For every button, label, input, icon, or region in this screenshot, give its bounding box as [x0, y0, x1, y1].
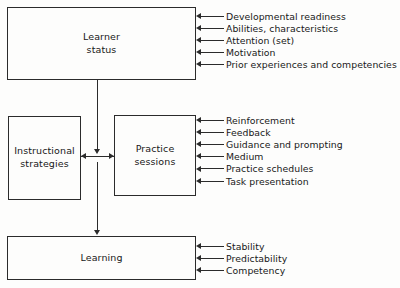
node-instructional-strategies-line2: strategies — [20, 158, 68, 169]
node-learner-status: Learner status — [7, 7, 196, 80]
annotation-label-practice-sessions-0: Reinforcement — [224, 115, 295, 126]
diagram-canvas: Learner status Instructional strategies … — [0, 0, 400, 288]
annotation-label-learner-status-2: Attention (set) — [224, 35, 294, 46]
arrow-left-icon — [196, 138, 224, 150]
node-instructional-strategies-line1: Instructional — [14, 145, 75, 156]
node-instructional-strategies: Instructional strategies — [8, 116, 81, 200]
arrow-left-icon — [196, 163, 224, 175]
annotation-row: Medium — [196, 151, 263, 163]
arrowhead-down-into-learning — [94, 230, 100, 235]
node-practice-sessions-label: Practice sessions — [115, 143, 195, 168]
arrow-left-icon — [196, 22, 224, 34]
annotation-label-learner-status-4: Prior experiences and competencies — [224, 59, 397, 70]
annotation-row: Feedback — [196, 126, 271, 138]
arrow-left-icon — [196, 34, 224, 46]
annotation-label-learner-status-3: Motivation — [224, 47, 275, 58]
arrow-left-icon — [196, 264, 224, 276]
arrow-left-icon — [196, 240, 224, 252]
annotation-row: Guidance and prompting — [196, 138, 343, 150]
annotation-label-practice-sessions-2: Guidance and prompting — [224, 139, 343, 150]
annotation-row: Reinforcement — [196, 114, 295, 126]
annotation-row: Competency — [196, 264, 285, 276]
arrow-left-icon — [196, 126, 224, 138]
annotation-label-learner-status-0: Developmental readiness — [224, 11, 346, 22]
annotation-row: Attention (set) — [196, 34, 294, 46]
annotation-row: Stability — [196, 240, 265, 252]
connector-learner-to-practice — [97, 80, 98, 150]
node-learner-status-label: Learner status — [83, 31, 120, 56]
node-learning: Learning — [7, 236, 196, 280]
annotation-label-learning-1: Predictability — [224, 253, 287, 264]
arrow-left-icon — [196, 10, 224, 22]
arrow-left-icon — [196, 175, 224, 187]
annotation-row: Predictability — [196, 252, 287, 264]
node-learner-status-line1: Learner — [83, 31, 120, 42]
annotation-row: Practice schedules — [196, 163, 314, 175]
node-learner-status-line2: status — [87, 44, 117, 55]
annotation-label-practice-sessions-1: Feedback — [224, 127, 271, 138]
annotation-row: Abilities, characteristics — [196, 22, 338, 34]
annotation-row: Prior experiences and competencies — [196, 58, 397, 70]
node-practice-sessions: Practice sessions — [114, 115, 196, 196]
annotation-label-practice-sessions-3: Medium — [224, 151, 263, 162]
arrowhead-down-into-practice-row — [94, 149, 100, 154]
node-learning-label: Learning — [80, 252, 122, 265]
annotation-row: Motivation — [196, 46, 275, 58]
arrow-left-icon — [196, 151, 224, 163]
annotation-row: Developmental readiness — [196, 10, 346, 22]
annotation-label-practice-sessions-4: Practice schedules — [224, 163, 314, 174]
arrowhead-right-into-practice — [109, 153, 114, 159]
node-instructional-strategies-label: Instructional strategies — [14, 145, 75, 170]
arrow-left-icon — [196, 58, 224, 70]
annotation-label-learning-2: Competency — [224, 265, 285, 276]
arrow-left-icon — [196, 252, 224, 264]
annotation-label-learner-status-1: Abilities, characteristics — [224, 23, 338, 34]
arrow-left-icon — [196, 46, 224, 58]
annotation-row: Task presentation — [196, 175, 309, 187]
arrowhead-left-into-strategies — [81, 153, 86, 159]
annotation-label-practice-sessions-5: Task presentation — [224, 176, 309, 187]
annotation-label-learning-0: Stability — [224, 241, 265, 252]
connector-practice-to-learning — [97, 162, 98, 231]
arrow-left-icon — [196, 114, 224, 126]
